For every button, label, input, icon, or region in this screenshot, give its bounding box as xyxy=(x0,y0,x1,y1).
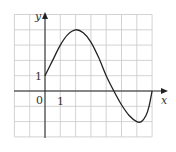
y-axis-arrow-icon xyxy=(42,12,48,19)
origin-label: 0 xyxy=(36,94,43,107)
y-tick-1-label: 1 xyxy=(35,70,42,83)
x-axis-label: x xyxy=(161,94,168,107)
y-axis-label: y xyxy=(34,10,42,23)
x-tick-1-label: 1 xyxy=(57,95,64,108)
graph: y x 0 1 1 xyxy=(0,0,176,152)
